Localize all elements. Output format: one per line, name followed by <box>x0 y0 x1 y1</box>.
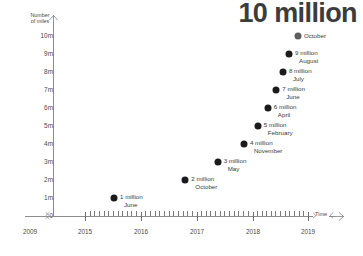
x-axis-minor-tick <box>220 211 221 216</box>
x-axis-tick-2016: 2016 <box>134 228 148 235</box>
data-point-7m[interactable] <box>273 87 280 94</box>
data-point-6m[interactable] <box>264 105 271 112</box>
data-point-label-10m: October <box>304 32 326 40</box>
x-axis-minor-tick <box>210 211 211 216</box>
x-axis-minor-tick <box>113 211 114 216</box>
data-point-value: 3 million <box>224 158 247 165</box>
data-point-month: June <box>124 201 143 209</box>
data-point-month: August <box>299 57 318 65</box>
x-axis-minor-tick <box>215 211 216 216</box>
x-axis-tick-2017: 2017 <box>190 228 204 235</box>
x-axis-minor-tick <box>201 211 202 216</box>
x-axis-minor-tick <box>224 211 225 216</box>
x-axis-minor-tick <box>229 211 230 216</box>
x-axis-minor-tick <box>234 211 235 216</box>
data-point-label-6m: 6 millionApril <box>274 104 297 119</box>
data-point-value: 8 million <box>289 68 312 75</box>
x-axis-major-tick-2016 <box>141 212 142 221</box>
data-point-8m[interactable] <box>279 69 286 76</box>
data-point-label-5m: 5 millionFebruary <box>264 122 293 137</box>
x-axis-minor-tick <box>262 211 263 216</box>
data-point-label-4m: 4 millionNovember <box>250 140 283 155</box>
x-axis-minor-tick <box>280 211 281 216</box>
data-point-1m[interactable] <box>110 195 117 202</box>
data-point-4m[interactable] <box>240 141 247 148</box>
x-axis-minor-tick <box>257 211 258 216</box>
x-axis-minor-tick <box>136 211 137 216</box>
x-axis-minor-tick <box>145 211 146 216</box>
x-axis-minor-tick <box>303 211 304 216</box>
x-axis-major-tick-2019 <box>308 212 309 221</box>
x-axis-minor-tick <box>164 211 165 216</box>
data-point-value: 7 million <box>282 86 305 93</box>
x-axis-minor-tick <box>285 211 286 216</box>
x-axis-minor-tick <box>243 211 244 216</box>
x-axis-major-tick-2015 <box>85 212 86 221</box>
x-axis-minor-tick <box>187 211 188 216</box>
data-point-month: May <box>228 165 247 173</box>
data-point-value: 5 million <box>264 122 287 129</box>
data-point-month: June <box>286 93 305 101</box>
x-axis-minor-tick <box>118 211 119 216</box>
data-point-10m[interactable] <box>294 33 301 40</box>
data-point-label-7m: 7 millionJune <box>282 86 305 101</box>
x-axis-minor-tick <box>104 211 105 216</box>
x-axis-minor-tick <box>90 211 91 216</box>
x-axis-minor-tick <box>127 211 128 216</box>
data-point-2m[interactable] <box>182 177 189 184</box>
x-axis-minor-tick <box>122 211 123 216</box>
data-point-value: 6 million <box>274 104 297 111</box>
x-axis-minor-tick <box>159 211 160 216</box>
x-axis-minor-tick <box>271 211 272 216</box>
data-point-9m[interactable] <box>286 51 293 58</box>
data-point-value: 2 million <box>191 176 214 183</box>
x-axis-minor-tick <box>169 211 170 216</box>
data-point-value: 1 million <box>120 194 143 201</box>
data-point-month: October <box>304 32 326 40</box>
data-point-3m[interactable] <box>214 159 221 166</box>
data-point-month: April <box>278 111 297 119</box>
x-axis-minor-tick <box>173 211 174 216</box>
x-axis-major-tick-2017 <box>197 212 198 221</box>
x-axis-minor-tick <box>294 211 295 216</box>
data-point-label-8m: 8 millionJuly <box>289 68 312 83</box>
x-axis-minor-tick <box>238 211 239 216</box>
x-axis-minor-tick <box>289 211 290 216</box>
x-axis-minor-tick <box>248 211 249 216</box>
data-point-month: November <box>254 147 283 155</box>
data-point-label-2m: 2 millionOctober <box>191 176 217 191</box>
x-axis-minor-tick <box>275 211 276 216</box>
x-axis-tick-2009: 2009 <box>23 228 37 235</box>
x-axis-tick-2018: 2018 <box>246 228 260 235</box>
x-axis-minor-tick <box>155 211 156 216</box>
timeline-scatter-chart: 10 million Number of miles 10m9m8m7m6m5m… <box>0 0 363 256</box>
x-axis-minor-tick <box>178 211 179 216</box>
x-axis-minor-tick <box>150 211 151 216</box>
x-axis-minor-tick <box>108 211 109 216</box>
x-axis-minor-tick <box>192 211 193 216</box>
data-point-5m[interactable] <box>254 123 261 130</box>
data-point-label-3m: 3 millionMay <box>224 158 247 173</box>
data-point-label-9m: 9 millionAugust <box>295 50 318 65</box>
x-axis-minor-tick <box>266 211 267 216</box>
x-axis-minor-tick <box>206 211 207 216</box>
data-point-month: July <box>293 75 312 83</box>
x-axis-tick-2015: 2015 <box>78 228 92 235</box>
x-axis-minor-tick <box>299 211 300 216</box>
data-point-month: October <box>195 183 217 191</box>
x-axis-minor-tick <box>99 211 100 216</box>
x-axis-minor-tick <box>183 211 184 216</box>
x-axis-major-tick-2018 <box>253 212 254 221</box>
data-point-month: February <box>268 129 293 137</box>
data-point-value: 9 million <box>295 50 318 57</box>
data-point-label-1m: 1 millionJune <box>120 194 143 209</box>
data-point-value: 4 million <box>250 140 273 147</box>
x-axis-tick-2019: 2019 <box>301 228 315 235</box>
x-axis-minor-tick <box>131 211 132 216</box>
x-axis-minor-tick <box>94 211 95 216</box>
